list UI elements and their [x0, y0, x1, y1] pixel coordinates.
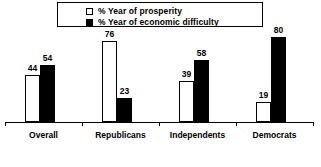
bar-republicans-prosperity: [102, 41, 117, 122]
x-axis-tick: [313, 122, 314, 126]
bar-republicans-economic-difficulty: [117, 98, 132, 122]
bar-value-label: 76: [96, 30, 123, 39]
bar-independents-economic-difficulty: [194, 60, 209, 122]
bar-overall-economic-difficulty: [40, 65, 55, 122]
category-label-overall: Overall: [5, 130, 82, 140]
x-axis-tick: [236, 122, 237, 126]
x-axis-tick: [82, 122, 83, 126]
category-label-independents: Independents: [159, 130, 236, 140]
bar-independents-prosperity: [179, 81, 194, 122]
bar-overall-prosperity: [25, 75, 40, 122]
category-label-republicans: Republicans: [82, 130, 159, 140]
bar-value-label: 23: [111, 87, 138, 96]
x-axis-tick: [159, 122, 160, 126]
x-axis-tick: [5, 122, 6, 126]
bar-democrats-prosperity: [256, 102, 271, 122]
bar-chart: % Year of prosperity % Year of economic …: [0, 0, 321, 167]
bar-value-label: 80: [265, 26, 292, 35]
plot-area: 4454762339581980 OverallRepublicansIndep…: [0, 0, 321, 167]
category-label-democrats: Democrats: [236, 130, 313, 140]
bar-value-label: 54: [34, 54, 61, 63]
bar-value-label: 58: [188, 49, 215, 58]
bar-democrats-economic-difficulty: [271, 37, 286, 122]
